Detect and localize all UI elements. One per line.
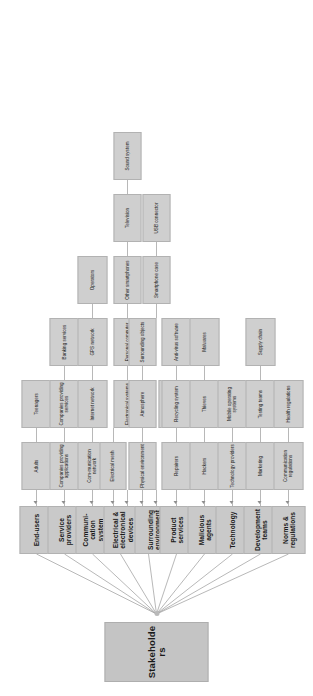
category-label: Malicious agents	[197, 508, 211, 552]
category-label: Norms & regulations	[281, 508, 295, 552]
sub-node-electrical-mesh[interactable]: Electrical mesh	[99, 442, 126, 490]
arrow-to-development-teams	[257, 501, 261, 504]
sub-node-label: Mobile operating systems	[227, 382, 237, 426]
sub-node-companies-providing-applications[interactable]: Companies providing applications	[49, 442, 79, 490]
sub-node-label: Anti-virus software	[174, 320, 179, 364]
sub-node-label: Marketing	[258, 444, 263, 488]
sub-node-label: Teenagers	[34, 382, 39, 426]
sub-node-communication-regulations[interactable]: Communication regulations	[273, 442, 303, 490]
sub-node-label: Electrical mesh	[110, 444, 115, 488]
arrow-to-service-providers	[61, 501, 65, 504]
sub-node-label: Other smartphones	[125, 258, 130, 302]
sub-node-banking-services[interactable]: Banking services	[49, 318, 79, 366]
sub-node-label: Testing teams	[258, 382, 263, 426]
sub-node-physical-environment[interactable]: Physical environment	[128, 442, 156, 490]
sub-node-label: Hackers	[202, 444, 207, 488]
sub-node-label: Communication regulations	[283, 444, 293, 488]
sub-node-mobile-operating-systems[interactable]: Mobile operating systems	[217, 380, 247, 428]
sub-node-label: Recycling system	[174, 382, 179, 426]
category-node-norms-regulations[interactable]: Norms & regulations	[271, 506, 305, 554]
sub-node-label: Television	[125, 196, 130, 240]
sub-node-companies-providing-services[interactable]: Companies providing services	[49, 380, 79, 428]
arrow-to-norms-regulations	[285, 501, 289, 504]
sub-node-label: Technology providers	[230, 444, 235, 488]
sub-node-label: GPS network	[90, 320, 95, 364]
category-label: Communi-cation system	[81, 508, 102, 552]
sub-node-health-regulations[interactable]: Health regulations	[273, 380, 303, 428]
sub-node-label: Repairers	[174, 444, 179, 488]
sub-node-label: Malwares	[202, 320, 207, 364]
sub-node-other-smartphones[interactable]: Other smartphones	[113, 256, 141, 304]
category-label: Development teams	[253, 508, 267, 552]
sub-node-thieves[interactable]: Thieves	[189, 380, 219, 428]
sub-node-gps-network[interactable]: GPS network	[77, 318, 107, 366]
root-node-stakeholders[interactable]: Stakeholders	[104, 622, 208, 682]
sub-node-label: Physical environment	[140, 444, 145, 488]
category-label: End-users	[32, 508, 39, 552]
sub-node-adults[interactable]: Adults	[21, 442, 51, 490]
sub-node-recycling-system[interactable]: Recycling system	[161, 380, 191, 428]
sub-node-label: Com-munication network	[87, 444, 97, 488]
sub-node-malwares[interactable]: Malwares	[189, 318, 219, 366]
root-node-label: Stakeholders	[146, 624, 167, 680]
sub-node-label: Sound system	[125, 134, 130, 178]
sub-node-testing-teams[interactable]: Testing teams	[245, 380, 275, 428]
sub-node-label: Supply chain	[258, 320, 263, 364]
sub-node-label: Health regulations	[286, 382, 291, 426]
sub-node-atmosphere[interactable]: Atmosphere	[128, 380, 156, 428]
sub-node-marketing[interactable]: Marketing	[245, 442, 275, 490]
fan-out-hub	[154, 612, 159, 617]
sub-node-internet-network[interactable]: Internet network	[77, 380, 107, 428]
category-label: Electrical & electronical devices	[111, 508, 132, 552]
diagram-canvas: Stakeholders End-users Adults Teenagers …	[0, 0, 313, 696]
sub-node-anti-virus-software[interactable]: Anti-virus software	[161, 318, 191, 366]
sub-node-hackers[interactable]: Hackers	[189, 442, 219, 490]
sub-node-label: Thieves	[202, 382, 207, 426]
category-label: Technology	[228, 508, 235, 552]
sub-node-label: Banking services	[62, 320, 67, 364]
sub-node-repairers[interactable]: Repairers	[161, 442, 191, 490]
arrow-to-customised-case	[153, 501, 157, 504]
sub-node-teenagers[interactable]: Teenagers	[21, 380, 51, 428]
arrow-to-end-users	[33, 501, 37, 504]
arrow-to-communication-system	[89, 501, 93, 504]
sub-node-label: Operators	[90, 258, 95, 302]
arrow-to-technology	[229, 501, 233, 504]
sub-node-surrounding-objects[interactable]: Surrounding objects	[128, 318, 156, 366]
arrow-to-product-services	[173, 501, 177, 504]
sub-node-label: Surrounding objects	[140, 320, 145, 364]
sub-node-technology-providers[interactable]: Technology providers	[217, 442, 247, 490]
sub-node-label: Atmosphere	[140, 382, 145, 426]
sub-node-television[interactable]: Television	[113, 194, 141, 242]
arrow-to-physical-environment	[139, 501, 143, 504]
arrow-to-electronical-systems	[124, 501, 128, 504]
sub-node-label: Internet network	[90, 382, 95, 426]
sub-node-smartphone-case[interactable]: Smartphone case	[142, 256, 170, 304]
sub-node-label: Companies providing services	[59, 382, 69, 426]
sub-node-operators[interactable]: Operators	[77, 256, 107, 304]
sub-node-label: USB connector	[154, 196, 159, 240]
sub-node-usb-connector[interactable]: USB connector	[142, 194, 170, 242]
sub-node-label: Adults	[34, 444, 39, 488]
sub-node-label: Companies providing applications	[59, 444, 69, 488]
sub-node-supply-chain[interactable]: Supply chain	[245, 318, 275, 366]
sub-node-label: Smartphone case	[154, 258, 159, 302]
sub-node-sound-system[interactable]: Sound system	[113, 132, 141, 180]
category-label: Service providers	[57, 508, 71, 552]
category-label: Surrounding environment	[146, 508, 160, 552]
arrow-to-malicious-agents	[201, 501, 205, 504]
diagram-stage: Stakeholders End-users Adults Teenagers …	[0, 0, 313, 696]
category-label: Product services	[169, 508, 183, 552]
arrow-to-electrical-mesh	[110, 501, 114, 504]
